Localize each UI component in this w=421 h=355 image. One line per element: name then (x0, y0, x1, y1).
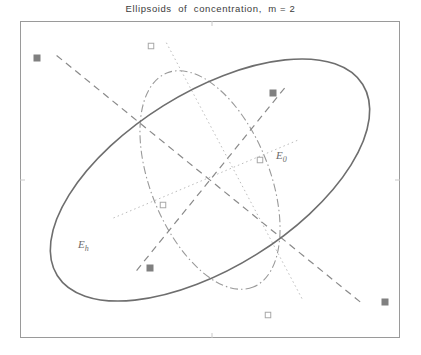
vertex-E0-minor-left (160, 202, 166, 208)
figure-container: Ellipsoids of concentration, m = 2 EhE0 (0, 0, 421, 355)
axis-line-E0 (166, 43, 303, 301)
axis-line-Eh (135, 88, 284, 272)
vertex-Eh-major-lower-right (382, 299, 388, 305)
label-E-h-subscript: h (85, 244, 89, 253)
vertex-Eh-minor-upper-right (270, 90, 276, 96)
label-E-h: Eh (77, 238, 89, 253)
vertex-E0-major-top (148, 43, 154, 49)
vertex-E0-major-bottom (265, 312, 271, 318)
plot-canvas: EhE0 (0, 0, 421, 355)
ellipse-Eh-axis-lines (57, 55, 364, 304)
label-E-0-subscript: 0 (283, 155, 287, 164)
vertex-E0-minor-right (257, 157, 263, 163)
label-E-0: E0 (275, 149, 287, 164)
vertex-Eh-minor-lower-left (147, 265, 153, 271)
axis-line-E0 (113, 140, 297, 218)
chart-title: Ellipsoids of concentration, m = 2 (0, 3, 421, 14)
vertex-Eh-major-upper-left (34, 55, 40, 61)
curve-labels: EhE0 (77, 149, 287, 253)
